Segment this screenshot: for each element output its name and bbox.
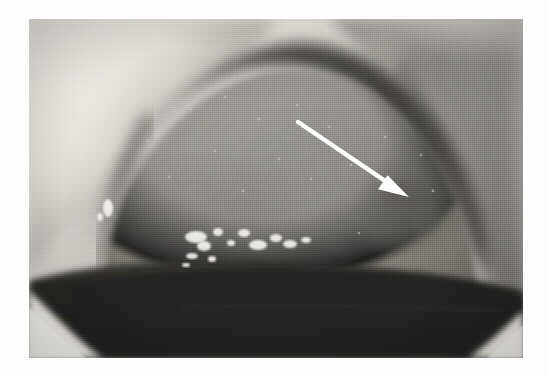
specular-highlight-4 bbox=[213, 228, 223, 236]
screenshot-root bbox=[0, 0, 549, 376]
specular-highlight-8 bbox=[270, 234, 282, 242]
clinical-photograph bbox=[29, 19, 523, 358]
specular-highlight-11 bbox=[186, 253, 198, 259]
photo-caption bbox=[0, 0, 1, 1]
specular-highlight-5 bbox=[227, 240, 235, 246]
specular-highlight-13 bbox=[182, 263, 190, 267]
photograph-canvas bbox=[29, 19, 523, 358]
specular-highlight-0 bbox=[103, 199, 113, 217]
specular-highlight-6 bbox=[238, 229, 250, 237]
specular-highlight-10 bbox=[301, 237, 311, 243]
specular-highlight-3 bbox=[197, 241, 211, 251]
specular-highlight-12 bbox=[208, 256, 216, 262]
specular-highlight-7 bbox=[249, 240, 267, 250]
lesion-speckle-c bbox=[365, 213, 397, 235]
specular-highlight-1 bbox=[97, 213, 103, 221]
lesion-speckle-b bbox=[411, 201, 439, 237]
cavity-core-dark bbox=[69, 269, 523, 358]
specular-highlight-9 bbox=[283, 240, 297, 248]
